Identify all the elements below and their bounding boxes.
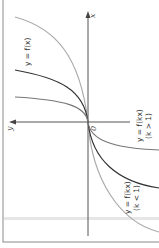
curve-stretched-upper <box>15 17 88 122</box>
label-compressed: y = f(kx) <box>135 109 144 142</box>
label-base: y = f(x) <box>23 38 32 66</box>
diagram-frame: x y 0 y = f(x) y = f(kx) (k > 1) y = f(k… <box>0 0 159 248</box>
y-axis-arrow-icon <box>9 120 16 125</box>
curve-compressed-upper <box>15 97 88 122</box>
label-stretched: y = f(kx) <box>123 181 132 214</box>
graph-svg: x y 0 y = f(x) y = f(kx) (k > 1) y = f(k… <box>0 0 159 248</box>
y-axis-label: y <box>5 126 14 132</box>
curve-base-upper <box>15 70 88 122</box>
label-compressed-condition: (k > 1) <box>144 113 153 139</box>
label-stretched-condition: (k < 1) <box>132 185 141 211</box>
scan-stripe <box>4 217 159 220</box>
x-axis-label: x <box>88 13 97 18</box>
